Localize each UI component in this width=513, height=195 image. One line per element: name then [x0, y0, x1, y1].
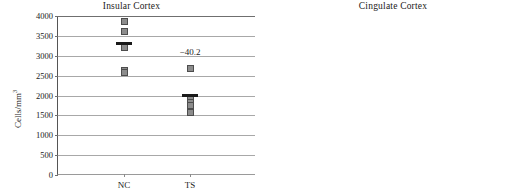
gridline — [58, 36, 255, 37]
y-axis-tick-mark — [55, 135, 59, 136]
y-axis-tick-mark — [55, 175, 59, 176]
plot-area: 05001000150020002500300035004000NCTS−40.… — [57, 16, 255, 175]
mean-bar — [116, 42, 132, 45]
data-point — [187, 65, 194, 72]
data-point — [187, 109, 194, 116]
gridline — [58, 96, 255, 97]
y-axis-label-text: Cells/mm — [13, 93, 23, 128]
gridline — [58, 155, 255, 156]
gridline — [58, 76, 255, 77]
data-point — [121, 18, 128, 25]
data-point — [121, 44, 128, 51]
y-axis-label: Cells/mm3 — [11, 90, 23, 128]
gridline — [58, 56, 255, 57]
y-axis-tick-mark — [55, 16, 59, 17]
y-axis-tick-mark — [55, 96, 59, 97]
y-axis-tick-mark — [55, 115, 59, 116]
x-axis-tick-mark — [190, 174, 191, 177]
data-point — [121, 69, 128, 76]
gridline — [58, 16, 255, 17]
x-axis-tick-label-nc: NC — [118, 180, 131, 190]
y-axis-tick-mark — [55, 76, 59, 77]
y-axis-label-exponent: 3 — [11, 90, 18, 93]
x-axis-tick-label-ts: TS — [185, 180, 196, 190]
gridline — [58, 135, 255, 136]
figure-root: Insular Cortex Cells/mm3 050010001500200… — [0, 0, 513, 195]
mean-bar — [182, 94, 198, 97]
y-axis-tick-mark — [55, 155, 59, 156]
chart-panel-insular-cortex: Insular Cortex Cells/mm3 050010001500200… — [0, 0, 257, 195]
y-axis-tick-mark — [55, 56, 59, 57]
chart-title: Insular Cortex — [3, 1, 260, 11]
chart-title: Cingulate Cortex — [265, 1, 513, 11]
y-axis-tick-mark — [55, 36, 59, 37]
x-axis-tick-mark — [124, 174, 125, 177]
percent-change-annotation: −40.2 — [180, 47, 201, 57]
chart-panel-cingulate-cortex: Cingulate Cortex 0500100015002000NCTS — [257, 0, 513, 195]
data-point — [121, 28, 128, 35]
gridline — [58, 115, 255, 116]
